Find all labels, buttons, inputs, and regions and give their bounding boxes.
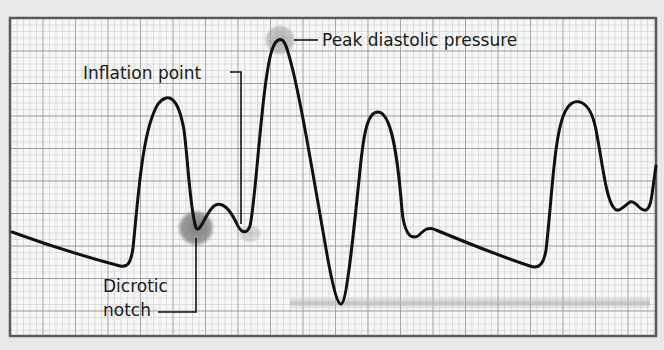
dicrotic-notch-label-line1: Dicrotic [103,276,168,296]
iabp-waveform-diagram: Peak diastolic pressure Inflation point … [0,0,664,350]
dicrotic-notch-label-line2: notch [103,300,151,320]
inflation-point-label: Inflation point [83,63,202,83]
peak-diastolic-label: Peak diastolic pressure [322,30,517,50]
